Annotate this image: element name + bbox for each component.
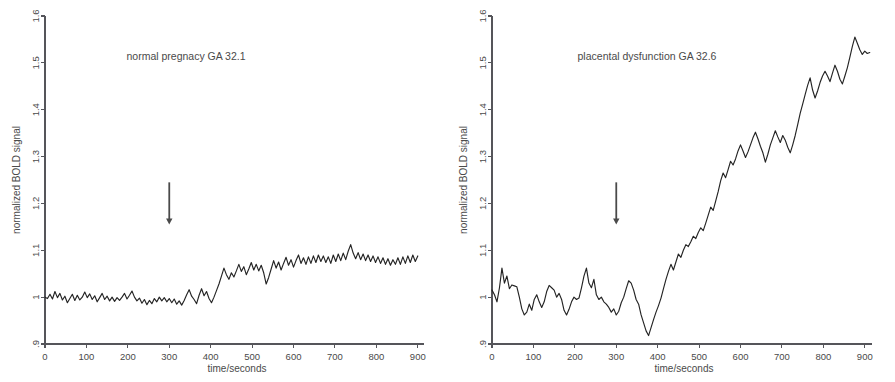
x-tick-label: 900 — [410, 351, 426, 362]
bold-trace-normal — [45, 245, 418, 305]
x-tick-label: 400 — [203, 351, 219, 362]
y-tick-label: .9 — [30, 340, 41, 348]
y-tick-labels-dysfunction: .911.11.21.31.41.51.6 — [477, 9, 488, 348]
x-ticks-normal — [45, 344, 418, 348]
y-tick-label: 1.3 — [30, 150, 41, 163]
arrow-head — [613, 219, 619, 225]
x-tick-label: 300 — [608, 351, 624, 362]
y-ticks-dysfunction — [488, 16, 492, 344]
plot-area-dysfunction: .911.11.21.31.41.51.6 010020030040050060… — [447, 0, 895, 382]
x-ticks-dysfunction — [492, 344, 865, 348]
x-tick-label: 900 — [857, 351, 873, 362]
y-ticks-normal — [41, 16, 45, 344]
x-tick-label: 200 — [567, 351, 583, 362]
y-axis-title: normalized BOLD signal — [458, 126, 469, 234]
panel-title: placental dysfunction GA 32.6 — [578, 50, 717, 62]
x-tick-label: 800 — [815, 351, 831, 362]
y-tick-label: 1.6 — [30, 9, 41, 22]
bold-signal-figure: .911.11.21.31.41.51.6 010020030040050060… — [0, 0, 895, 382]
y-tick-label: 1.2 — [30, 197, 41, 210]
y-axis-title: normalized BOLD signal — [11, 126, 22, 234]
bold-trace-dysfunction — [492, 37, 870, 335]
onset-arrow-dysfunction — [613, 182, 619, 224]
x-tick-label: 400 — [650, 351, 666, 362]
x-tick-labels-dysfunction: 0100200300400500600700800900 — [489, 351, 872, 362]
x-tick-label: 700 — [774, 351, 790, 362]
y-tick-label: 1.1 — [477, 244, 488, 257]
x-tick-label: 700 — [327, 351, 343, 362]
x-tick-label: 300 — [161, 351, 177, 362]
y-tick-label: 1 — [30, 294, 41, 299]
y-tick-label: 1.5 — [477, 56, 488, 69]
y-tick-label: .9 — [477, 340, 488, 348]
x-tick-label: 500 — [244, 351, 260, 362]
x-tick-label: 200 — [120, 351, 136, 362]
y-tick-label: 1.6 — [477, 9, 488, 22]
x-tick-label: 800 — [368, 351, 384, 362]
y-tick-label: 1.5 — [30, 56, 41, 69]
panel-placental-dysfunction: .911.11.21.31.41.51.6 010020030040050060… — [447, 0, 895, 382]
y-tick-label: 1.2 — [477, 197, 488, 210]
x-axis-title: time/seconds — [208, 363, 267, 374]
x-tick-label: 100 — [525, 351, 541, 362]
x-tick-label: 600 — [733, 351, 749, 362]
y-tick-label: 1.4 — [30, 103, 41, 116]
panel-normal-pregnancy: .911.11.21.31.41.51.6 010020030040050060… — [0, 0, 447, 382]
y-tick-label: 1.3 — [477, 150, 488, 163]
x-tick-label: 0 — [489, 351, 494, 362]
x-tick-label: 500 — [691, 351, 707, 362]
onset-arrow-normal — [166, 182, 172, 224]
y-tick-label: 1.1 — [30, 244, 41, 257]
x-tick-label: 0 — [42, 351, 47, 362]
arrow-head — [166, 219, 172, 225]
panel-title: normal pregnacy GA 32.1 — [126, 50, 245, 62]
y-tick-labels-normal: .911.11.21.31.41.51.6 — [30, 9, 41, 348]
y-tick-label: 1 — [477, 294, 488, 299]
plot-area-normal: .911.11.21.31.41.51.6 010020030040050060… — [0, 0, 447, 382]
x-axis-title: time/seconds — [655, 363, 714, 374]
x-tick-label: 100 — [78, 351, 94, 362]
x-tick-label: 600 — [286, 351, 302, 362]
x-tick-labels-normal: 0100200300400500600700800900 — [42, 351, 425, 362]
y-tick-label: 1.4 — [477, 103, 488, 116]
